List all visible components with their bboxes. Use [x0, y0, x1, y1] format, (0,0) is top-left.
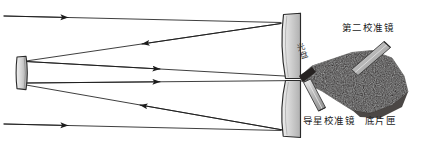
label-guide-star-collimator: 导星校准镜	[303, 116, 355, 126]
ray-bundle	[4, 16, 302, 131]
ray-outgoing-upper	[26, 62, 302, 78]
ray-reflected-upper	[26, 24, 281, 62]
ray-incoming-top	[4, 16, 281, 23]
camera-body	[299, 51, 408, 119]
secondary-mirror	[16, 56, 27, 89]
label-second-collimator: 第二校准镜	[342, 23, 394, 33]
ray-reflected-lower	[26, 85, 283, 130]
label-plate-holder: 底片匣	[365, 116, 396, 126]
telescope-optical-path-figure: 第二校准镜 导星校准镜 底片匣 光盘	[0, 0, 424, 145]
ray-incoming-bottom	[4, 124, 281, 131]
primary-mirror-lower-segment	[282, 81, 301, 138]
ray-outgoing-lower	[26, 81, 302, 84]
